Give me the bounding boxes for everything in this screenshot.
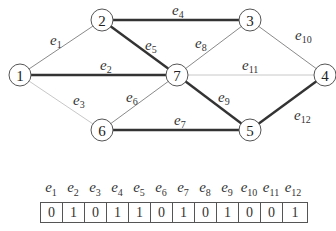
bit-cell-e1: 0 (41, 203, 63, 222)
edge-bit-vector: e1e2e3e4e5e6e7e8e9e10e11e12 010110101001 (40, 172, 308, 223)
bit-cell-e10: 0 (239, 203, 261, 222)
header-e1: e1 (40, 172, 62, 202)
header-e5: e5 (128, 172, 150, 202)
edge-e12 (250, 75, 325, 130)
node-6: 6 (91, 119, 113, 141)
edge-label-e6: e6 (126, 89, 138, 107)
edge-label-e12: e12 (294, 107, 311, 125)
edge-label-e10: e10 (295, 27, 312, 45)
header-e11: e11 (260, 172, 282, 202)
bit-cell-e4: 1 (107, 203, 129, 222)
header-e12: e12 (282, 172, 304, 202)
edge-label-e5: e5 (145, 37, 157, 55)
header-e7: e7 (172, 172, 194, 202)
edge-e5 (102, 20, 177, 75)
node-7: 7 (166, 64, 188, 86)
edge-label-e9: e9 (218, 89, 230, 107)
svg-text:2: 2 (98, 13, 106, 29)
bit-cell-e5: 1 (129, 203, 151, 222)
svg-text:1: 1 (16, 68, 24, 84)
edge-e3 (20, 75, 102, 130)
header-e4: e4 (106, 172, 128, 202)
header-e3: e3 (84, 172, 106, 202)
bit-cell-e2: 1 (63, 203, 85, 222)
bit-cell-e11: 0 (261, 203, 283, 222)
edge-label-e4: e4 (172, 2, 184, 20)
edge-label-e11: e11 (242, 57, 258, 75)
bit-cell-e6: 0 (151, 203, 173, 222)
node-3: 3 (239, 9, 261, 31)
edge-label-e7: e7 (174, 112, 186, 130)
node-4: 4 (314, 64, 336, 86)
bit-cell-e7: 1 (173, 203, 195, 222)
edge-label-e8: e8 (195, 35, 207, 53)
svg-text:3: 3 (246, 13, 254, 29)
header-e8: e8 (194, 172, 216, 202)
edge-label-e3: e3 (73, 92, 85, 110)
bit-cell-e9: 1 (217, 203, 239, 222)
header-e9: e9 (216, 172, 238, 202)
header-e10: e10 (238, 172, 260, 202)
bit-cell-e12: 1 (283, 203, 307, 222)
bit-cell-e3: 0 (85, 203, 107, 222)
node-5: 5 (239, 119, 261, 141)
edge-label-e2: e2 (100, 57, 112, 75)
edge-e8 (177, 20, 250, 75)
edge-label-e1: e1 (50, 32, 62, 50)
edge-e9 (177, 75, 250, 130)
graph-diagram: e1e2e3e4e5e6e7e8e9e10e11e121234567 (0, 0, 336, 165)
node-2: 2 (91, 9, 113, 31)
node-1: 1 (9, 64, 31, 86)
edge-e6 (102, 75, 177, 130)
svg-text:4: 4 (321, 68, 329, 84)
edge-header-row: e1e2e3e4e5e6e7e8e9e10e11e12 (40, 172, 308, 202)
bit-cell-e8: 0 (195, 203, 217, 222)
edge-e10 (250, 20, 325, 75)
svg-text:5: 5 (246, 123, 254, 139)
svg-text:7: 7 (173, 68, 181, 84)
bit-value-row: 010110101001 (40, 202, 308, 223)
svg-text:6: 6 (98, 123, 106, 139)
header-e6: e6 (150, 172, 172, 202)
header-e2: e2 (62, 172, 84, 202)
